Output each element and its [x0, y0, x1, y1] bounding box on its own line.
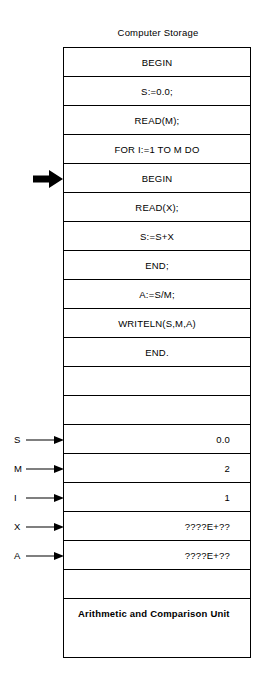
cell-label: BEGIN	[142, 57, 173, 68]
statement-cell: S:=0.0;	[64, 77, 250, 106]
variable-pointer-arrow	[26, 464, 64, 474]
cell-label: WRITELN(S,M,A)	[118, 318, 196, 329]
variable-pointer-arrow	[26, 493, 64, 503]
computer-storage-diagram: Computer Storage BEGINS:=0.0;READ(M);FOR…	[0, 0, 273, 678]
cell-label: END;	[145, 260, 169, 271]
memory-box: BEGINS:=0.0;READ(M);FOR I:=1 TO M DOBEGI…	[63, 47, 251, 658]
statement-cell: S:=S+X	[64, 222, 250, 251]
statement-cell: FOR I:=1 TO M DO	[64, 135, 250, 164]
statement-cell: WRITELN(S,M,A)	[64, 309, 250, 338]
instruction-pointer-arrow	[33, 169, 64, 189]
variable-pointer-arrow	[26, 522, 64, 532]
statement-cell: BEGIN	[64, 48, 250, 77]
statement-cell: END.	[64, 338, 250, 367]
variable-value: ????E+??	[185, 550, 250, 561]
cell-label: END.	[145, 347, 169, 358]
statement-cell: BEGIN	[64, 164, 250, 193]
variable-pointer-arrow	[26, 551, 64, 561]
variable-cell: ????E+??	[64, 512, 250, 541]
empty-cell	[64, 367, 250, 396]
cell-label: A:=S/M;	[139, 289, 174, 300]
variable-pointer-arrow	[26, 435, 64, 445]
arithmetic-comparison-unit: Arithmetic and Comparison Unit	[64, 599, 250, 657]
statement-cell: A:=S/M;	[64, 280, 250, 309]
variable-cell: ????E+??	[64, 541, 250, 570]
cell-label: S:=S+X	[140, 231, 174, 242]
variable-value: 0.0	[216, 434, 250, 445]
cell-label: S:=0.0;	[141, 86, 173, 97]
cell-label: READ(M);	[135, 115, 180, 126]
variable-cell: 1	[64, 483, 250, 512]
empty-cell	[64, 570, 250, 599]
statement-cell: READ(X);	[64, 193, 250, 222]
variable-value: 1	[225, 492, 250, 503]
variable-value: ????E+??	[185, 521, 250, 532]
cell-label: BEGIN	[142, 173, 173, 184]
cell-label: READ(X);	[135, 202, 178, 213]
variable-value: 2	[225, 463, 250, 474]
diagram-title: Computer Storage	[63, 27, 253, 38]
variable-cell: 0.0	[64, 425, 250, 454]
cell-label: FOR I:=1 TO M DO	[115, 144, 200, 155]
cell-label: Arithmetic and Comparison Unit	[64, 599, 230, 619]
statement-cell: READ(M);	[64, 106, 250, 135]
statement-cell: END;	[64, 251, 250, 280]
empty-cell	[64, 396, 250, 425]
variable-cell: 2	[64, 454, 250, 483]
